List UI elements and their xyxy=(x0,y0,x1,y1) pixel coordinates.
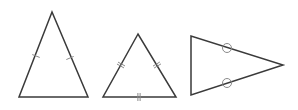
triangle-outline xyxy=(191,36,283,95)
triangle-outline xyxy=(19,12,88,97)
triangles-diagram xyxy=(0,0,298,110)
equilateral-triangle xyxy=(103,34,176,101)
isosceles-triangle-circle-marks xyxy=(191,36,283,95)
triangle-outline xyxy=(103,34,176,97)
isosceles-triangle xyxy=(19,12,88,97)
